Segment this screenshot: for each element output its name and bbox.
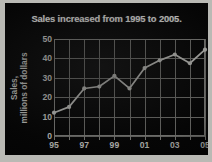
plot-area	[54, 39, 205, 136]
data-point-marker	[67, 105, 71, 109]
data-point-marker	[127, 86, 131, 90]
y-axis-tick-label: 40	[34, 53, 52, 63]
x-axis-tick-label: 97	[73, 140, 95, 150]
data-point-marker	[82, 86, 86, 90]
y-axis-tick-label: 50	[34, 34, 52, 44]
data-point-marker	[97, 84, 101, 88]
x-axis-tick-label: 05	[194, 140, 208, 150]
x-axis-tick-label: 03	[164, 140, 186, 150]
x-axis-tick-label: 01	[134, 140, 156, 150]
data-point-marker	[203, 48, 207, 52]
y-axis-title-line1: Sales,	[9, 76, 19, 100]
data-series-line	[54, 39, 205, 136]
y-axis-tick-label: 20	[34, 92, 52, 102]
x-axis-tick-label: 99	[103, 140, 125, 150]
chart-title: Sales increased from 1995 to 2005.	[5, 13, 208, 24]
y-axis-tick-label: 10	[34, 112, 52, 122]
x-axis-tick-labels: 959799010305	[54, 140, 205, 154]
data-point-marker	[158, 58, 162, 62]
data-point-marker	[188, 61, 192, 65]
y-axis-title-line2: millions of dollars	[19, 52, 29, 123]
data-point-marker	[112, 74, 116, 78]
gridline-vertical	[205, 39, 206, 136]
data-point-marker	[52, 111, 56, 115]
chart-panel: Sales increased from 1995 to 2005. Sales…	[5, 3, 208, 155]
y-axis-title: Sales, millions of dollars	[9, 39, 31, 136]
data-point-marker	[173, 52, 177, 56]
data-point-marker	[143, 66, 147, 70]
y-axis-tick-labels: 01020304050	[30, 39, 52, 136]
x-axis-tick-label: 95	[43, 140, 65, 150]
y-axis-tick-label: 30	[34, 73, 52, 83]
data-line	[54, 50, 205, 113]
chart-figure: Sales increased from 1995 to 2005. Sales…	[0, 0, 212, 162]
